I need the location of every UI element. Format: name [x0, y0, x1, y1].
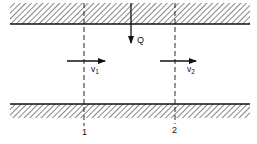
pipe-flow-diagram: Q v1 v2 1 2 [0, 0, 257, 144]
top-wall [10, 3, 250, 24]
velocity-v2-label: v2 [187, 64, 195, 75]
bottom-wall-hatch [10, 104, 250, 118]
velocity-v2-subscript: 2 [191, 68, 195, 75]
inflow-q-label: Q [137, 35, 144, 45]
velocity-v1-subscript: 1 [95, 68, 99, 75]
top-wall-hatch [10, 3, 250, 24]
velocity-v1-label: v1 [91, 64, 99, 75]
section-1-label: 1 [82, 127, 87, 137]
bottom-wall [10, 104, 250, 118]
section-2-label: 2 [172, 125, 177, 135]
